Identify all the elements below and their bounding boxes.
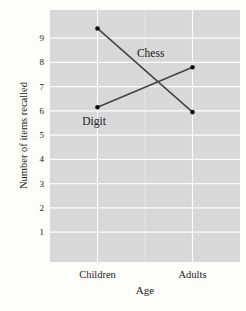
y-tick-label-8: 8 bbox=[24, 57, 44, 67]
chart-canvas: ChessDigit bbox=[50, 10, 240, 262]
data-point-chess-children bbox=[95, 26, 100, 31]
data-point-digit-adults bbox=[190, 65, 195, 70]
x-tick-label-children: Children bbox=[79, 269, 116, 281]
data-point-chess-adults bbox=[190, 110, 195, 115]
chart-figure: Number of items recalled ChessDigit 1234… bbox=[0, 0, 246, 311]
y-tick-label-1: 1 bbox=[24, 227, 44, 237]
x-tick-label-adults: Adults bbox=[178, 269, 206, 281]
y-tick-label-4: 4 bbox=[24, 154, 44, 164]
y-tick-label-9: 9 bbox=[24, 33, 44, 43]
y-tick-label-2: 2 bbox=[24, 203, 44, 213]
y-tick-label-5: 5 bbox=[24, 130, 44, 140]
plot-panel: ChessDigit bbox=[50, 10, 240, 262]
series-label-chess: Chess bbox=[137, 47, 165, 59]
series-label-digit: Digit bbox=[82, 115, 106, 128]
y-tick-label-7: 7 bbox=[24, 82, 44, 92]
x-axis-title: Age bbox=[50, 284, 240, 296]
y-tick-label-6: 6 bbox=[24, 106, 44, 116]
data-point-digit-children bbox=[95, 105, 100, 110]
y-tick-label-3: 3 bbox=[24, 179, 44, 189]
